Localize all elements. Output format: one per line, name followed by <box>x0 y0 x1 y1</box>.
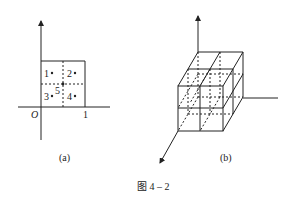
panel-b-label: (b) <box>220 152 232 164</box>
point-3 <box>51 95 53 97</box>
point-4 <box>74 95 76 97</box>
point-5 <box>62 83 65 86</box>
figure-4-2: 1 2 3 4 5 O 1 (a) <box>0 0 307 203</box>
panel-a-label: (a) <box>59 152 70 164</box>
point-2-label: 2 <box>67 68 72 79</box>
point-4-label: 4 <box>67 91 72 102</box>
point-1 <box>51 72 53 74</box>
point-1-label: 1 <box>44 68 49 79</box>
figure-caption: 图 4 – 2 <box>137 181 170 192</box>
tick-label-1: 1 <box>83 109 88 120</box>
panel-a <box>18 21 110 140</box>
point-5-label: 5 <box>55 85 60 96</box>
x-axis-3d <box>160 131 178 163</box>
point-2 <box>74 72 76 74</box>
origin-label: O <box>31 109 38 120</box>
point-3-label: 3 <box>44 91 49 102</box>
panel-b <box>160 16 278 163</box>
